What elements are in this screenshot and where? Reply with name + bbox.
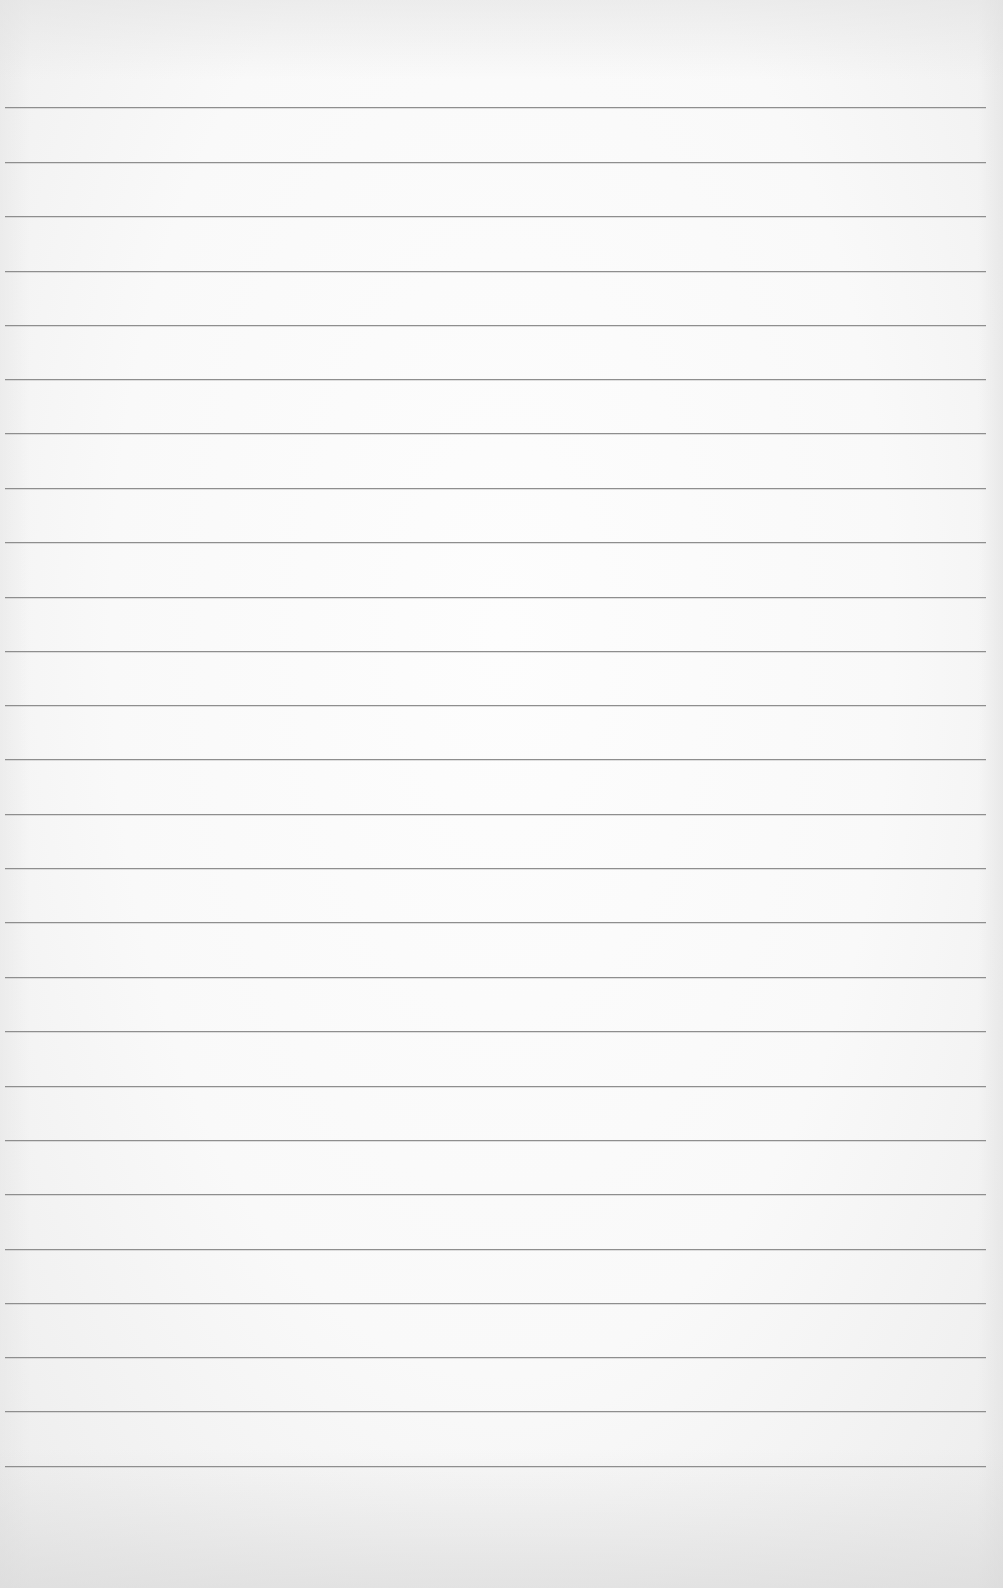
ruled-line: [5, 379, 986, 380]
ruled-line: [5, 1194, 986, 1195]
ruled-line: [5, 433, 986, 434]
ruled-line: [5, 759, 986, 760]
ruled-line: [5, 651, 986, 652]
ruled-line: [5, 1140, 986, 1141]
ruled-line: [5, 162, 986, 163]
ruled-line: [5, 1357, 986, 1358]
ruled-line: [5, 1466, 986, 1467]
ruled-line: [5, 488, 986, 489]
ruled-line: [5, 597, 986, 598]
lined-paper-sheet: [0, 0, 1003, 1588]
ruled-line: [5, 868, 986, 869]
ruled-line: [5, 325, 986, 326]
ruled-line: [5, 107, 986, 108]
ruled-line: [5, 705, 986, 706]
ruled-line: [5, 1086, 986, 1087]
ruled-line: [5, 922, 986, 923]
ruled-line: [5, 814, 986, 815]
ruled-line: [5, 1031, 986, 1032]
ruled-line: [5, 1249, 986, 1250]
ruled-line: [5, 216, 986, 217]
ruled-line: [5, 1411, 986, 1412]
ruled-line: [5, 1303, 986, 1304]
ruled-line: [5, 542, 986, 543]
ruled-line: [5, 977, 986, 978]
ruled-line: [5, 271, 986, 272]
